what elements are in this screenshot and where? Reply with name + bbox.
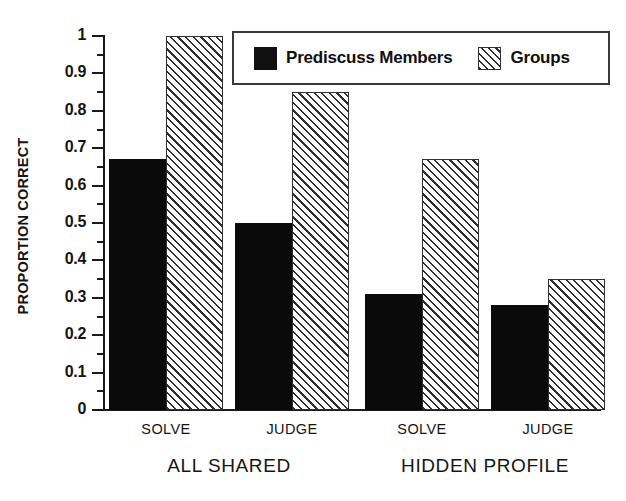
bar-all-shared-solve-prediscuss-members [109, 159, 166, 410]
bar-all-shared-solve-groups [166, 36, 223, 410]
y-tick-label: 0.2 [40, 325, 86, 343]
y-tick-label: 0.4 [40, 250, 86, 268]
bar-hidden-profile-solve-prediscuss-members [365, 294, 422, 410]
legend-swatch-solid-icon [254, 47, 277, 70]
bar-hidden-profile-solve-groups [422, 159, 479, 410]
legend-entry: Groups [478, 47, 569, 70]
legend-label: Prediscuss Members [286, 48, 452, 68]
y-axis-tick-labels: 00.10.20.30.40.50.60.70.80.91 [34, 0, 86, 501]
bar-hidden-profile-judge-groups [548, 279, 605, 410]
plot-area [104, 36, 600, 410]
y-tick-label: 0.8 [40, 101, 86, 119]
bar-chart: PROPORTION CORRECT 00.10.20.30.40.50.60.… [0, 0, 626, 501]
y-tick-label: 0.1 [40, 363, 86, 381]
x-group-label: HIDDEN PROFILE [355, 455, 615, 477]
y-tick-label: 0.9 [40, 63, 86, 81]
x-sub-label: JUDGE [232, 421, 352, 437]
y-tick-label: 0 [40, 400, 86, 418]
legend: Prediscuss MembersGroups [232, 31, 610, 85]
x-group-label: ALL SHARED [99, 455, 359, 477]
x-sub-label: SOLVE [362, 421, 482, 437]
y-tick-label: 0.6 [40, 176, 86, 194]
bar-all-shared-judge-groups [292, 92, 349, 410]
legend-entry: Prediscuss Members [254, 47, 452, 70]
legend-swatch-hatched-icon [478, 47, 501, 70]
y-tick-label: 0.3 [40, 288, 86, 306]
y-tick-label: 1 [40, 26, 86, 44]
legend-label: Groups [510, 48, 569, 68]
x-sub-label: SOLVE [106, 421, 226, 437]
x-sub-label: JUDGE [488, 421, 608, 437]
bar-hidden-profile-judge-prediscuss-members [491, 305, 548, 410]
y-tick-label: 0.5 [40, 213, 86, 231]
y-axis-title: PROPORTION CORRECT [15, 126, 31, 326]
bar-all-shared-judge-prediscuss-members [235, 223, 292, 410]
y-tick-label: 0.7 [40, 138, 86, 156]
